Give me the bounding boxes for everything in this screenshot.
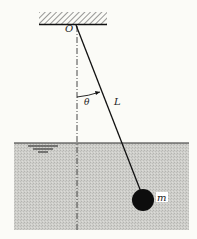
pivot-label: O (65, 23, 73, 34)
mass-label: m (157, 192, 166, 203)
pendulum-diagram: O θ L m (0, 0, 197, 239)
pendulum-mass (132, 189, 154, 211)
water-body (14, 143, 189, 230)
arrowhead-icon (95, 91, 100, 95)
fluid-region (14, 143, 189, 230)
length-label: L (113, 96, 121, 107)
angle-label: θ (84, 97, 90, 107)
